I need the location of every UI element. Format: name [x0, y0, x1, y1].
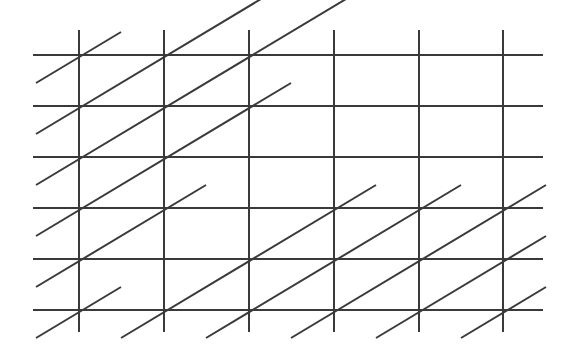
- lattice-figure: [0, 0, 575, 351]
- lattice-canvas: [0, 0, 575, 351]
